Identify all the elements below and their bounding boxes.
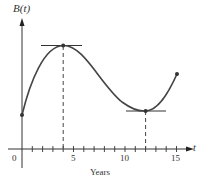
y-axis-arrow-icon [20, 18, 25, 26]
x-axis-var-label: t [193, 143, 196, 153]
tick-label-15: 15 [171, 154, 180, 163]
max-point [61, 44, 65, 48]
tick-label-5: 5 [71, 154, 76, 163]
origin-label: 0 [12, 154, 17, 163]
start-point [20, 113, 24, 117]
end-point [175, 72, 179, 76]
tick-label-10: 10 [120, 154, 129, 163]
chart-canvas [0, 0, 200, 182]
x-axis-title: Years [90, 168, 110, 177]
curve-B-of-t [22, 45, 177, 115]
y-axis-label: B(t) [13, 3, 30, 14]
min-point [144, 109, 148, 113]
